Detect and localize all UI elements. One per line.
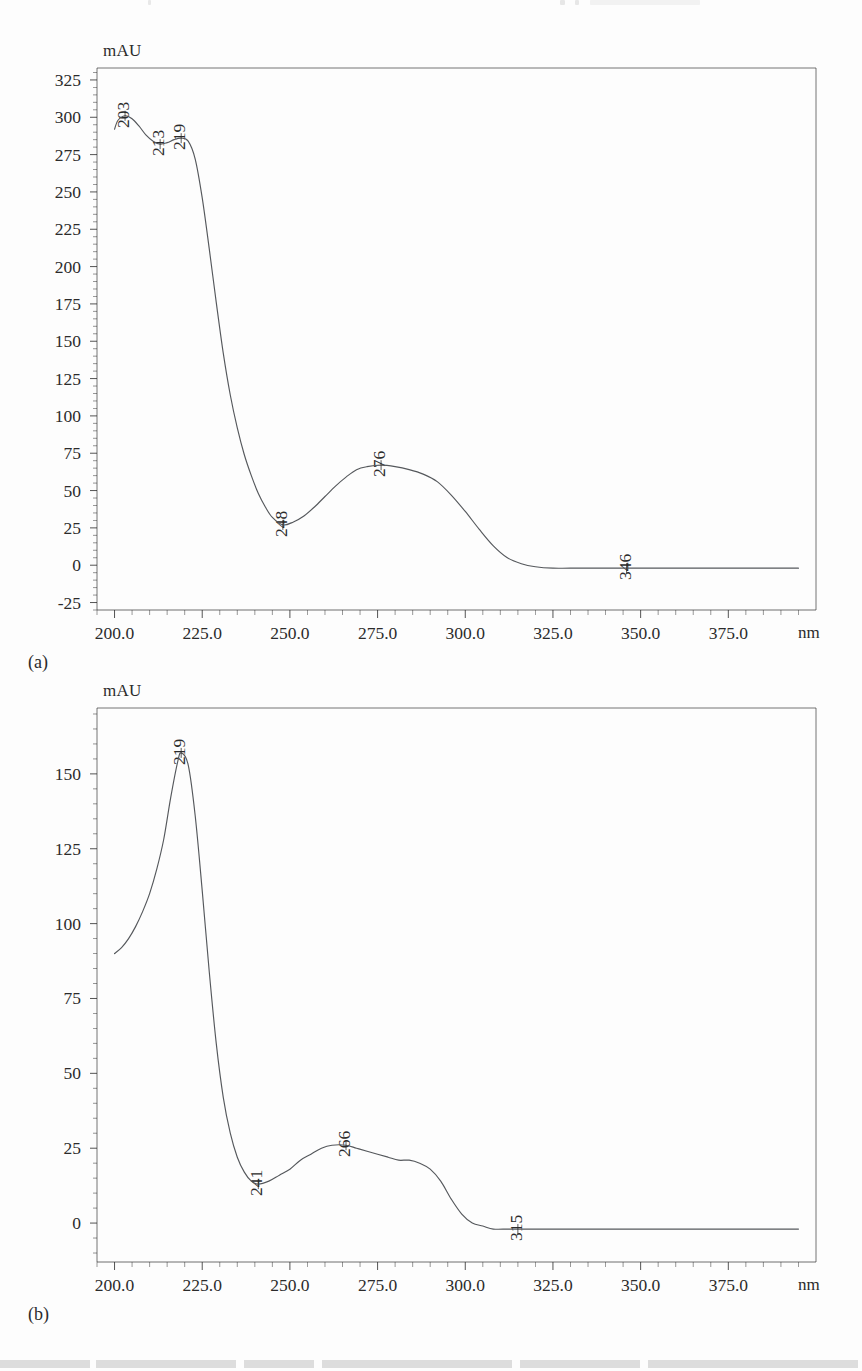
scan-edge-artifact-bottom: [0, 1357, 862, 1371]
plot-canvas-b: [0, 680, 862, 1340]
x-axis-unit-label: nm: [798, 623, 820, 643]
plot-frame: [97, 708, 816, 1262]
y-axis-unit-label: mAU: [103, 41, 141, 61]
figure-b-uv-spectrum: 1501251007550250200.0225.0250.0275.0300.…: [0, 680, 862, 1340]
plot-canvas-a: [0, 30, 862, 690]
spectrum-curve: [115, 116, 799, 569]
figure-a-uv-spectrum: 3253002752502252001751501251007550250-25…: [0, 30, 862, 690]
spectrum-curve: [115, 753, 799, 1229]
x-axis-unit-label: nm: [798, 1275, 820, 1295]
scan-edge-artifact-top: [0, 0, 862, 6]
figure-caption-b: (b): [28, 1304, 49, 1325]
plot-frame: [97, 68, 816, 610]
scanned-figure-page: 3253002752502252001751501251007550250-25…: [0, 0, 862, 1371]
figure-caption-a: (a): [28, 652, 48, 673]
y-axis-unit-label: mAU: [103, 681, 141, 701]
